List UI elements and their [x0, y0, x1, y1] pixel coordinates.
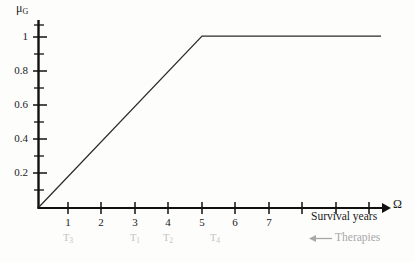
mu-g-membership-line: [39, 36, 381, 207]
therapies-legend-label: Therapies: [335, 232, 380, 244]
x-tick-label: 7: [262, 217, 276, 228]
therapy-marker: T1: [127, 233, 143, 245]
x-tick-label: 2: [94, 217, 108, 228]
therapy-marker-subscript: 4: [216, 236, 220, 245]
chart-figure: μG 1 0.8 0.6 0.4 0.2 1 2 3 4 5 6 7 Ω Sur…: [0, 0, 415, 262]
therapy-marker: T4: [207, 233, 223, 245]
x-axis-label-omega: Ω: [393, 198, 402, 210]
therapy-marker-subscript: 1: [136, 236, 140, 245]
therapy-marker: T3: [60, 233, 76, 245]
x-axis-arrowhead: [382, 203, 391, 213]
y-major-ticks: [33, 37, 47, 173]
y-axis-label-subscript: G: [22, 7, 28, 16]
x-tick-label: 4: [161, 217, 175, 228]
y-tick-label: 0.8: [2, 65, 28, 76]
y-tick-label: 0.6: [2, 99, 28, 110]
x-tick-label: 6: [228, 217, 242, 228]
y-tick-label: 1: [2, 31, 28, 42]
x-tick-label: 5: [195, 217, 209, 228]
y-tick-label: 0.2: [2, 167, 28, 178]
y-tick-label: 0.4: [2, 133, 28, 144]
x-tick-label: 3: [128, 217, 142, 228]
therapy-marker: T2: [160, 233, 176, 245]
x-axis-label-survival-years: Survival years: [311, 211, 377, 223]
therapy-marker-subscript: 2: [169, 236, 173, 245]
x-tick-label: 1: [61, 217, 75, 228]
y-axis-label: μG: [16, 2, 28, 16]
therapy-marker-subscript: 3: [69, 236, 73, 245]
therapies-arrow-icon: [309, 235, 332, 242]
